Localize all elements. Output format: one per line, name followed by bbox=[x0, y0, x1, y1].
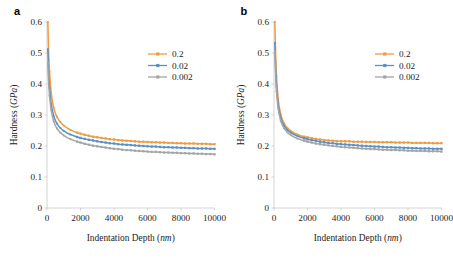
series-marker-2 bbox=[327, 144, 329, 146]
legend-marker-0 bbox=[156, 52, 159, 55]
series-marker-1 bbox=[113, 142, 115, 144]
series-marker-2 bbox=[180, 152, 182, 154]
series-marker-1 bbox=[176, 146, 178, 148]
series-marker-0 bbox=[121, 139, 123, 141]
series-marker-1 bbox=[289, 132, 291, 134]
series-marker-0 bbox=[427, 142, 429, 144]
series-marker-1 bbox=[47, 48, 49, 50]
x-tick-label: 2000 bbox=[298, 213, 317, 223]
series-marker-0 bbox=[390, 141, 392, 143]
series-marker-1 bbox=[88, 139, 90, 141]
series-marker-1 bbox=[360, 145, 362, 147]
series-marker-0 bbox=[104, 137, 106, 139]
series-marker-0 bbox=[348, 140, 350, 142]
series-marker-0 bbox=[192, 142, 194, 144]
series-marker-2 bbox=[88, 144, 90, 146]
series-marker-1 bbox=[104, 141, 106, 143]
series-marker-1 bbox=[84, 138, 86, 140]
series-marker-0 bbox=[76, 132, 78, 134]
y-tick-label: 0.5 bbox=[257, 48, 269, 58]
series-marker-1 bbox=[125, 144, 127, 146]
series-marker-2 bbox=[76, 141, 78, 143]
series-marker-2 bbox=[289, 134, 291, 136]
legend-marker-0 bbox=[383, 52, 386, 55]
series-marker-2 bbox=[323, 144, 325, 146]
series-marker-2 bbox=[63, 135, 65, 137]
series-marker-0 bbox=[440, 142, 442, 144]
y-tick-label: 0.2 bbox=[257, 141, 269, 151]
series-marker-2 bbox=[117, 148, 119, 150]
series-marker-2 bbox=[352, 147, 354, 149]
series-marker-1 bbox=[369, 145, 371, 147]
series-marker-1 bbox=[402, 147, 404, 149]
series-marker-0 bbox=[436, 142, 438, 144]
series-marker-1 bbox=[167, 146, 169, 148]
series-marker-2 bbox=[213, 153, 215, 155]
series-marker-1 bbox=[390, 146, 392, 148]
x-axis-title: Indentation Depth (nm) bbox=[87, 233, 175, 244]
x-tick-label: 6000 bbox=[138, 213, 157, 223]
series-marker-1 bbox=[296, 135, 298, 137]
series-marker-0 bbox=[146, 141, 148, 143]
series-marker-2 bbox=[339, 146, 341, 148]
series-marker-0 bbox=[134, 140, 136, 142]
series-marker-2 bbox=[286, 132, 288, 134]
series-line-0 bbox=[48, 22, 215, 144]
series-marker-2 bbox=[314, 142, 316, 144]
series-marker-2 bbox=[188, 152, 190, 154]
series-marker-0 bbox=[327, 139, 329, 141]
series-marker-2 bbox=[344, 146, 346, 148]
series-marker-2 bbox=[390, 149, 392, 151]
series-marker-2 bbox=[49, 95, 51, 97]
series-marker-1 bbox=[323, 141, 325, 143]
series-marker-1 bbox=[273, 42, 275, 44]
series-marker-1 bbox=[431, 148, 433, 150]
series-marker-0 bbox=[197, 143, 199, 145]
series-marker-0 bbox=[364, 141, 366, 143]
series-marker-1 bbox=[327, 142, 329, 144]
series-marker-2 bbox=[163, 151, 165, 153]
y-tick-label: 0.3 bbox=[257, 110, 269, 120]
series-marker-1 bbox=[79, 137, 81, 139]
series-marker-0 bbox=[213, 143, 215, 145]
series-marker-0 bbox=[163, 141, 165, 143]
series-marker-0 bbox=[88, 135, 90, 137]
series-marker-2 bbox=[138, 150, 140, 152]
series-marker-0 bbox=[406, 141, 408, 143]
series-marker-1 bbox=[117, 143, 119, 145]
series-marker-0 bbox=[53, 107, 55, 109]
series-marker-1 bbox=[364, 145, 366, 147]
series-marker-0 bbox=[381, 141, 383, 143]
series-marker-2 bbox=[109, 147, 111, 149]
series-marker-2 bbox=[335, 145, 337, 147]
y-axis-title: Hardness (GPa) bbox=[236, 85, 247, 146]
series-marker-0 bbox=[125, 140, 127, 142]
series-marker-1 bbox=[121, 143, 123, 145]
series-marker-2 bbox=[310, 141, 312, 143]
x-tick-label: 6000 bbox=[365, 213, 384, 223]
series-marker-1 bbox=[197, 147, 199, 149]
y-axis-title: Hardness (GPa) bbox=[9, 85, 20, 146]
series-marker-2 bbox=[402, 149, 404, 151]
legend-marker-1 bbox=[383, 64, 386, 67]
y-tick-label: 0.6 bbox=[31, 17, 43, 27]
series-marker-2 bbox=[369, 148, 371, 150]
legend-label-1: 0.02 bbox=[399, 61, 415, 71]
series-marker-0 bbox=[402, 141, 404, 143]
x-tick-label: 2000 bbox=[71, 213, 90, 223]
y-tick-label: 0.6 bbox=[257, 17, 269, 27]
series-marker-0 bbox=[394, 141, 396, 143]
series-marker-1 bbox=[130, 144, 132, 146]
series-marker-1 bbox=[314, 140, 316, 142]
series-marker-2 bbox=[356, 147, 358, 149]
y-tick-label: 0.1 bbox=[31, 172, 43, 182]
series-marker-0 bbox=[209, 143, 211, 145]
series-marker-2 bbox=[104, 146, 106, 148]
series-marker-2 bbox=[419, 150, 421, 152]
series-marker-0 bbox=[180, 142, 182, 144]
series-line-1 bbox=[48, 49, 215, 149]
series-marker-1 bbox=[356, 144, 358, 146]
series-marker-0 bbox=[117, 139, 119, 141]
series-marker-2 bbox=[192, 152, 194, 154]
panel-a: a 00.10.20.30.40.50.60200040006000800010… bbox=[0, 0, 227, 263]
